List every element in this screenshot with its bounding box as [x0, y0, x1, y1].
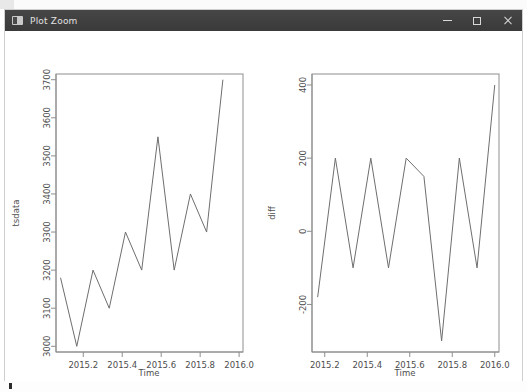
tsdata-series-line — [61, 80, 223, 347]
y-tick-label: 3000 — [42, 335, 52, 357]
diff-xlabel: Time — [394, 368, 416, 378]
window-title: Plot Zoom — [30, 16, 78, 26]
x-tick-label: 2015.4 — [352, 360, 382, 370]
x-tick-label: 2016.0 — [480, 360, 510, 370]
desktop-background-bottom — [0, 381, 527, 392]
y-tick-label: 200 — [298, 150, 308, 166]
x-tick-label: 2015.2 — [310, 360, 340, 370]
diff-y-axis: -2000200400 — [298, 74, 312, 352]
chart-tsdata: 30003100320033003400350036003700 2015.22… — [11, 69, 254, 378]
y-tick-label: 3700 — [42, 69, 52, 91]
diff-plot-frame — [312, 74, 499, 352]
minimize-icon[interactable] — [432, 10, 462, 31]
chart-diff: -2000200400 2015.22015.42015.62015.82016… — [267, 74, 510, 378]
screen: Plot Zoom 300031003200330034003500360037… — [0, 0, 527, 392]
y-tick-label: 400 — [298, 77, 308, 93]
y-tick-label: 0 — [298, 229, 308, 234]
diff-ylabel: diff — [267, 205, 277, 220]
x-tick-label: 2015.4 — [107, 360, 137, 370]
y-tick-label: -200 — [298, 295, 308, 314]
plot-canvas: 30003100320033003400350036003700 2015.22… — [5, 31, 522, 381]
mouse-cursor — [9, 383, 12, 389]
diff-series-line — [318, 85, 495, 341]
x-tick-label: 2016.0 — [224, 360, 254, 370]
window-app-icon — [12, 16, 23, 25]
y-tick-label: 3400 — [42, 183, 52, 205]
y-tick-label: 3100 — [42, 297, 52, 319]
r-graphics-device: 30003100320033003400350036003700 2015.22… — [5, 31, 522, 381]
y-tick-label: 3600 — [42, 107, 52, 129]
y-tick-label: 3500 — [42, 145, 52, 167]
y-tick-label: 3300 — [42, 221, 52, 243]
tsdata-xlabel: Time — [138, 368, 160, 378]
y-tick-label: 3200 — [42, 259, 52, 281]
tsdata-y-axis: 30003100320033003400350036003700 — [42, 69, 56, 357]
window-titlebar[interactable]: Plot Zoom — [5, 10, 522, 31]
tsdata-ylabel: tsdata — [11, 200, 21, 227]
close-icon[interactable] — [492, 10, 522, 31]
desktop-background-top — [0, 0, 527, 9]
maximize-icon[interactable] — [462, 10, 492, 31]
x-tick-label: 2015.2 — [68, 360, 98, 370]
desktop-edge-artifact — [0, 0, 14, 9]
x-tick-label: 2015.8 — [185, 360, 215, 370]
x-tick-label: 2015.8 — [437, 360, 467, 370]
plot-zoom-window: Plot Zoom 300031003200330034003500360037… — [4, 9, 523, 381]
